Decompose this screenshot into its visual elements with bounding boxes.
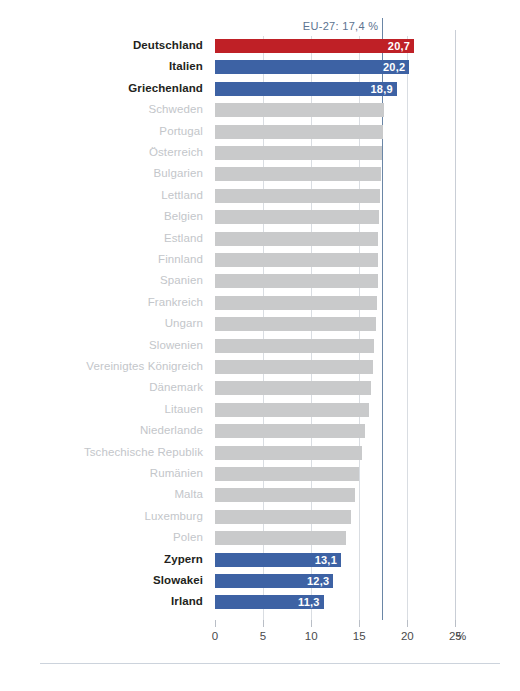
bar-label: Irland	[171, 592, 203, 613]
x-tick-5	[263, 620, 264, 627]
footer-divider	[40, 663, 500, 664]
bar	[215, 296, 377, 310]
bar-label: Niederlande	[140, 421, 203, 442]
bar-label: Spanien	[160, 271, 203, 292]
bar-label: Malta	[174, 485, 203, 506]
bar: 12,3	[215, 574, 333, 588]
bar-label: Deutschland	[133, 36, 203, 57]
x-tick-10	[311, 620, 312, 627]
bar-row: Niederlande	[215, 421, 465, 442]
bar-label: Portugal	[159, 122, 203, 143]
bar-row: Ungarn	[215, 314, 465, 335]
bar-label: Italien	[169, 57, 203, 78]
bar-chart: EU-27: 17,4 % Deutschland20,7Italien20,2…	[0, 0, 520, 691]
bar	[215, 510, 351, 524]
bar-row: Schweden	[215, 100, 465, 121]
x-axis: 0510152025%	[215, 620, 465, 650]
x-tick-25	[455, 620, 456, 627]
bar-value-label: 20,7	[388, 39, 410, 53]
bar-label: Bulgarien	[154, 164, 204, 185]
bar: 11,3	[215, 595, 324, 609]
bar	[215, 146, 382, 160]
bar	[215, 339, 374, 353]
bar	[215, 531, 346, 545]
bar-label: Frankreich	[148, 293, 203, 314]
bar-label: Rumänien	[150, 464, 203, 485]
bar-row: Deutschland20,7	[215, 36, 465, 57]
bar	[215, 253, 378, 267]
bar: 18,9	[215, 82, 397, 96]
bar: 20,2	[215, 60, 409, 74]
x-tick-label: 20	[401, 630, 414, 642]
bar-row: Malta	[215, 485, 465, 506]
bar-row: Lettland	[215, 186, 465, 207]
bar-value-label: 18,9	[371, 82, 393, 96]
bar-label: Lettland	[161, 186, 203, 207]
x-tick-0	[215, 620, 216, 627]
bar-label: Slowenien	[149, 336, 203, 357]
bar-label: Vereinigtes Königreich	[86, 357, 203, 378]
bar-label: Ungarn	[165, 314, 203, 335]
bar-label: Tschechische Republik	[84, 443, 203, 464]
bar-label: Dänemark	[149, 378, 203, 399]
eu-reference-label: EU-27: 17,4 %	[303, 20, 383, 32]
bar-row: Spanien	[215, 271, 465, 292]
bar-label: Luxemburg	[145, 507, 203, 528]
bar-label: Belgien	[164, 207, 203, 228]
bar	[215, 424, 365, 438]
bar-row: Slowakei12,3	[215, 571, 465, 592]
bar	[215, 274, 378, 288]
bar-label: Polen	[173, 528, 203, 549]
bar-value-label: 12,3	[307, 574, 329, 588]
bar	[215, 103, 384, 117]
plot-area: Deutschland20,7Italien20,2Griechenland18…	[215, 36, 465, 620]
bar-row: Slowenien	[215, 336, 465, 357]
bar-row: Italien20,2	[215, 57, 465, 78]
bar-row: Griechenland18,9	[215, 79, 465, 100]
bar-label: Zypern	[164, 550, 203, 571]
bar	[215, 446, 362, 460]
x-tick-20	[407, 620, 408, 627]
bar-row: Finnland	[215, 250, 465, 271]
bar	[215, 232, 378, 246]
bar: 20,7	[215, 39, 414, 53]
bar-label: Finnland	[158, 250, 203, 271]
bar-label: Litauen	[165, 400, 203, 421]
bar	[215, 403, 369, 417]
bar	[215, 381, 371, 395]
bar	[215, 167, 381, 181]
bar-label: Estland	[164, 229, 203, 250]
bar	[215, 488, 355, 502]
x-tick-15	[359, 620, 360, 627]
bar-row: Belgien	[215, 207, 465, 228]
bar-label: Griechenland	[128, 79, 203, 100]
bar-value-label: 13,1	[315, 553, 337, 567]
bar	[215, 125, 383, 139]
bar-row: Portugal	[215, 122, 465, 143]
bar-row: Estland	[215, 229, 465, 250]
bar	[215, 360, 373, 374]
x-axis-unit: %	[456, 630, 466, 642]
x-tick-label: 0	[212, 630, 218, 642]
bar-row: Österreich	[215, 143, 465, 164]
bar-label: Österreich	[149, 143, 203, 164]
bar-label: Schweden	[148, 100, 203, 121]
x-tick-label: 10	[305, 630, 318, 642]
bar: 13,1	[215, 553, 341, 567]
bar-value-label: 11,3	[298, 595, 320, 609]
bar	[215, 467, 359, 481]
bar-row: Dänemark	[215, 378, 465, 399]
bar-row: Luxemburg	[215, 507, 465, 528]
bar	[215, 317, 376, 331]
bar-row: Tschechische Republik	[215, 443, 465, 464]
x-tick-label: 15	[353, 630, 366, 642]
bar-value-label: 20,2	[383, 60, 405, 74]
bar-row: Polen	[215, 528, 465, 549]
bar-row: Frankreich	[215, 293, 465, 314]
bar-row: Bulgarien	[215, 164, 465, 185]
bar-row: Vereinigtes Königreich	[215, 357, 465, 378]
bar-label: Slowakei	[153, 571, 203, 592]
bar-row: Litauen	[215, 400, 465, 421]
bar	[215, 210, 379, 224]
x-tick-label: 5	[260, 630, 266, 642]
